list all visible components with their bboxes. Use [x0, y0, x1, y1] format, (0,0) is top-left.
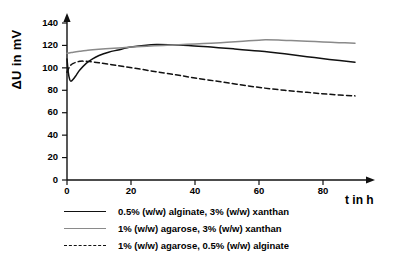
- legend-line-grey-icon: [62, 224, 108, 234]
- y-axis-arrowhead: [63, 13, 70, 22]
- legend-item-label: 1% (w/w) agarose, 0.5% (w/w) alginate: [108, 240, 289, 251]
- axes: [63, 13, 375, 184]
- chart-legend: 0.5% (w/w) alginate, 3% (w/w) xanthan 1%…: [62, 203, 362, 254]
- legend-item-agarose-xanthan: 1% (w/w) agarose, 3% (w/w) xanthan: [62, 220, 362, 237]
- x-axis-ticks: [67, 180, 323, 185]
- legend-item-alginate-xanthan: 0.5% (w/w) alginate, 3% (w/w) xanthan: [62, 203, 362, 220]
- series-line-0: [67, 45, 355, 82]
- legend-item-label: 1% (w/w) agarose, 3% (w/w) xanthan: [108, 223, 282, 234]
- legend-item-label: 0.5% (w/w) alginate, 3% (w/w) xanthan: [108, 206, 289, 217]
- data-series-layer: [67, 40, 355, 96]
- y-axis-ticks: [62, 23, 67, 180]
- x-axis-arrowhead: [366, 176, 375, 183]
- legend-item-agarose-alginate: 1% (w/w) agarose, 0.5% (w/w) alginate: [62, 237, 362, 254]
- series-line-2: [67, 61, 355, 96]
- legend-line-solid-icon: [62, 207, 108, 217]
- chart-figure: ΔU in mV t in h 0 20 40 60 80 100 120 14…: [0, 0, 405, 267]
- legend-line-dashed-icon: [62, 241, 108, 251]
